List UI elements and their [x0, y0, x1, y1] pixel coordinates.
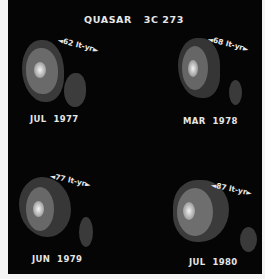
quasar-image-frame: QUASAR 3C 273 ◄62 lt-yr► JUL 1977 ◄68 lt… — [8, 0, 262, 274]
image-title: QUASAR 3C 273 — [84, 14, 184, 25]
jet-knot — [240, 227, 257, 252]
panel-jul-1977: ◄62 lt-yr► JUL 1977 — [8, 28, 133, 163]
jet-knot — [64, 73, 86, 107]
radio-core — [183, 202, 195, 220]
radio-core — [188, 60, 198, 77]
scale-annotation: ◄62 lt-yr► — [57, 35, 100, 54]
radio-core — [33, 201, 44, 217]
observation-date: MAR 1978 — [183, 116, 238, 126]
radio-core — [34, 62, 46, 78]
observation-date: JUL 1980 — [189, 257, 238, 267]
panel-mar-1978: ◄68 lt-yr► MAR 1978 — [168, 28, 262, 163]
observation-date: JUL 1977 — [30, 114, 79, 124]
jet-knot — [229, 80, 242, 105]
panel-jun-1979: ◄77 lt-yr► JUN 1979 — [13, 167, 138, 274]
panel-jul-1980: ◄87 lt-yr► JUL 1980 — [165, 170, 262, 274]
observation-date: JUN 1979 — [32, 254, 82, 264]
jet-knot — [79, 217, 93, 247]
